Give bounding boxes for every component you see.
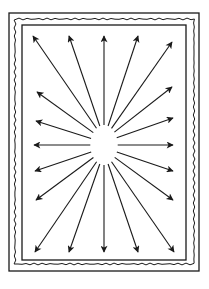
arrow-19 [108,164,138,252]
arrow-13 [117,152,173,171]
arrow-2 [69,36,100,126]
radial-arrows-diagram [0,0,209,289]
arrow-16 [35,162,97,252]
center-oval [91,126,117,164]
arrow-5 [112,42,173,128]
arrow-1 [33,36,97,128]
diagram-canvas [0,0,209,289]
arrow-20 [112,162,175,252]
arrow-7 [114,87,172,132]
arrow-8 [36,121,91,138]
arrow-12 [35,152,91,171]
arrow-9 [117,118,173,138]
arrow-17 [69,164,100,252]
